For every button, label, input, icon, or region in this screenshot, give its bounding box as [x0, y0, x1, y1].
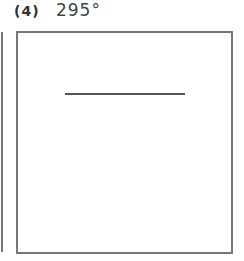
- angle-value: 295°: [56, 0, 101, 20]
- problem-label: (4) 295°: [14, 0, 101, 21]
- problem-number: (4): [14, 3, 40, 19]
- previous-box-edge: [1, 32, 3, 252]
- drawing-box: [16, 31, 233, 254]
- line-segment: [65, 93, 185, 95]
